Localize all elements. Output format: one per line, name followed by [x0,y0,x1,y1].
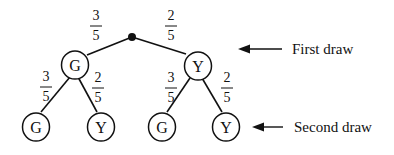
edge-root-y [132,37,186,54]
second-draw-annotation: Second draw [252,119,372,135]
svg-text:5: 5 [43,89,50,104]
svg-text:2: 2 [95,70,102,85]
svg-text:3: 3 [93,8,100,23]
prob-root-y: 2 5 [165,8,177,43]
prob-root-g: 3 5 [90,8,102,43]
probability-tree-diagram: G Y G Y G Y 3 5 2 5 3 5 2 5 [0,0,394,155]
node-label: G [69,57,81,74]
node-first-y: Y [185,52,212,80]
svg-text:5: 5 [168,90,175,105]
node-label: G [30,119,42,136]
root-node-dot [128,33,136,41]
svg-text:5: 5 [93,28,100,43]
svg-text:5: 5 [224,90,231,105]
node-label: Y [192,58,204,75]
svg-text:5: 5 [168,28,175,43]
node-second-yg: G [149,113,176,141]
arrow-left-icon [252,123,264,132]
first-draw-label: First draw [292,41,353,57]
prob-y-y: 2 5 [221,70,233,105]
prob-g-g: 3 5 [40,69,52,104]
node-label: Y [95,119,107,136]
node-label: Y [220,119,232,136]
edge-y-y [202,78,222,112]
svg-text:5: 5 [95,90,102,105]
second-draw-label: Second draw [294,119,372,135]
arrow-left-icon [238,45,250,54]
svg-text:3: 3 [168,70,175,85]
svg-text:2: 2 [224,70,231,85]
svg-text:3: 3 [43,69,50,84]
node-label: G [156,119,168,136]
prob-g-y: 2 5 [92,70,104,105]
node-second-gg: G [23,113,50,141]
node-second-yy: Y [213,113,240,141]
svg-text:2: 2 [168,8,175,23]
first-draw-annotation: First draw [238,41,353,57]
node-second-gy: Y [88,113,115,141]
node-first-g: G [62,51,89,79]
